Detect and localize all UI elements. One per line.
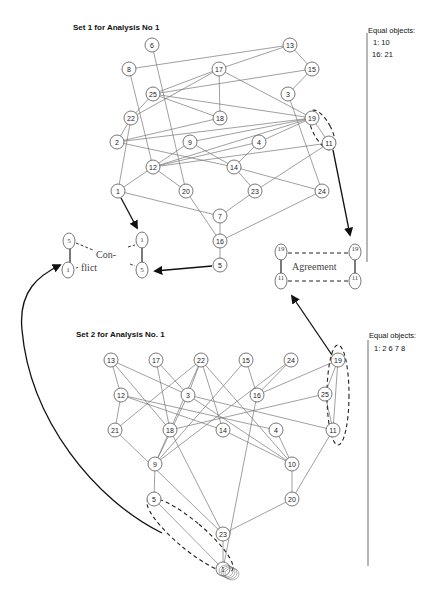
set1-title: Set 1 for Analysis No 1 [73, 23, 160, 32]
set2-node-18: 18 [163, 423, 177, 437]
set1-node-17: 17 [212, 62, 226, 76]
svg-text:10: 10 [288, 461, 296, 468]
set1-node-23: 23 [248, 184, 262, 198]
conflict-label-bottom: flict [81, 262, 97, 273]
svg-text:14: 14 [219, 427, 227, 434]
set2-node-3: 3 [181, 388, 195, 402]
set1-node-7: 7 [213, 209, 227, 223]
svg-text:5: 5 [140, 266, 144, 274]
set1-node-8: 8 [122, 62, 136, 76]
svg-text:11: 11 [325, 140, 332, 147]
set2-node-12: 12 [114, 388, 128, 402]
svg-text:18: 18 [166, 427, 174, 434]
set1-node-22: 22 [124, 111, 138, 125]
set1-node-9: 9 [183, 135, 197, 149]
conflict-group: 5 1 1 5 Con- flict [62, 232, 148, 278]
svg-text:11: 11 [329, 427, 336, 434]
set2-node-16: 16 [250, 388, 264, 402]
set2-node-9: 9 [148, 457, 162, 471]
set1-node-18: 18 [213, 111, 227, 125]
arrow-set2-node5-to-conflict [22, 265, 162, 533]
svg-text:23: 23 [219, 531, 227, 538]
svg-text:17: 17 [215, 66, 223, 73]
svg-text:15: 15 [242, 357, 250, 364]
set2-edge-16-1 [223, 395, 257, 569]
svg-text:16: 16 [216, 238, 224, 245]
set1-node-12: 12 [146, 160, 160, 174]
svg-text:4: 4 [274, 427, 278, 434]
set2-node-10: 10 [285, 457, 299, 471]
set2-edge-14-10 [223, 430, 292, 464]
svg-text:5: 5 [152, 496, 156, 503]
set2-edge-22-14 [201, 360, 223, 430]
svg-text:25: 25 [149, 91, 157, 98]
set2-edge-21-23 [115, 430, 223, 534]
svg-text:20: 20 [288, 496, 296, 503]
svg-text:1: 1 [116, 188, 120, 195]
set2-node-13: 13 [104, 353, 118, 367]
svg-text:13: 13 [107, 357, 115, 364]
svg-text:11: 11 [352, 274, 359, 282]
set1-edge-1-7 [118, 191, 220, 216]
svg-text:19: 19 [334, 357, 342, 364]
svg-text:2: 2 [115, 139, 119, 146]
conflict-label-top: Con- [96, 249, 116, 260]
svg-text:3: 3 [286, 91, 290, 98]
svg-text:5: 5 [67, 237, 71, 245]
set2-node-14: 14 [216, 423, 230, 437]
set1-node-19: 19 [305, 111, 319, 125]
set1-node-1: 1 [111, 184, 125, 198]
set2-node-23: 23 [216, 527, 230, 541]
svg-text:19: 19 [278, 245, 286, 253]
set2-equal-heading: Equal objects: [369, 331, 416, 340]
svg-text:22: 22 [197, 357, 205, 364]
svg-text:12: 12 [117, 392, 125, 399]
set1-node-16: 16 [213, 234, 227, 248]
set1-node-2: 2 [110, 135, 124, 149]
svg-text:23: 23 [251, 188, 259, 195]
svg-text:1: 1 [140, 236, 144, 244]
set2-node-24: 24 [284, 353, 298, 367]
set1-node-6: 6 [145, 38, 159, 52]
set1-node-20: 20 [179, 184, 193, 198]
svg-text:25: 25 [321, 391, 329, 398]
set2-node-15: 15 [239, 353, 253, 367]
svg-text:19: 19 [352, 245, 360, 253]
set1-node-24: 24 [315, 184, 329, 198]
svg-text:24: 24 [318, 188, 326, 195]
set1-node-3: 3 [281, 87, 295, 101]
svg-text:8: 8 [127, 66, 131, 73]
set2-edge-15-9 [155, 360, 246, 464]
set1-edge-9-19 [190, 118, 312, 142]
set1-edge-3-24 [288, 94, 322, 191]
set1-node-4: 4 [252, 135, 266, 149]
set2-title: Set 2 for Analysis No. 1 [76, 330, 165, 339]
set2-edge-5-1 [154, 499, 223, 569]
svg-text:22: 22 [127, 115, 135, 122]
svg-text:16: 16 [253, 392, 261, 399]
set2-node-17: 17 [149, 353, 163, 367]
set1-node-13: 13 [283, 38, 297, 52]
set2-node-25: 25 [318, 387, 332, 401]
set1-equal-heading: Equal objects: [368, 26, 415, 35]
arrow-set1-node11-to-agreement [333, 150, 350, 235]
set2-node-22: 22 [194, 353, 208, 367]
set1-edge-17-22 [131, 69, 219, 118]
set1-edges [117, 45, 329, 265]
set1-edge-24-16 [220, 191, 322, 241]
set2-node-5: 5 [147, 492, 161, 506]
set1-equal-row-2: 16: 21 [372, 50, 393, 59]
set1-node-5: 5 [213, 258, 227, 272]
set2-node-21: 21 [108, 423, 122, 437]
set2-edge-18-23 [170, 430, 223, 534]
svg-text:20: 20 [182, 188, 190, 195]
set1-edge-11-23 [255, 143, 329, 191]
set1-edge-25-18 [153, 94, 220, 118]
set1-node-15: 15 [305, 62, 319, 76]
svg-text:12: 12 [149, 164, 157, 171]
svg-text:6: 6 [150, 42, 154, 49]
svg-text:19: 19 [308, 115, 316, 122]
svg-text:7: 7 [218, 213, 222, 220]
svg-text:21: 21 [111, 427, 119, 434]
set2-equal-row-1: 1: 2 6 7 8 [374, 344, 405, 353]
